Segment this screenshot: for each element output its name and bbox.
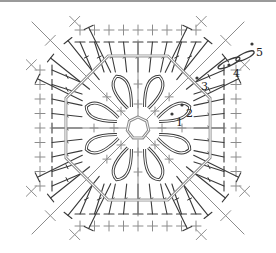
round-label-4: 4 — [233, 67, 240, 80]
round-label-3: 3 — [201, 80, 208, 93]
crochet-chart: 12345 — [0, 0, 276, 253]
radial-guide-lines — [32, 22, 244, 234]
center-ring — [127, 117, 148, 138]
round-label-5: 5 — [256, 46, 263, 59]
round-label-1: 1 — [176, 116, 183, 129]
round-label-2: 2 — [186, 107, 193, 120]
